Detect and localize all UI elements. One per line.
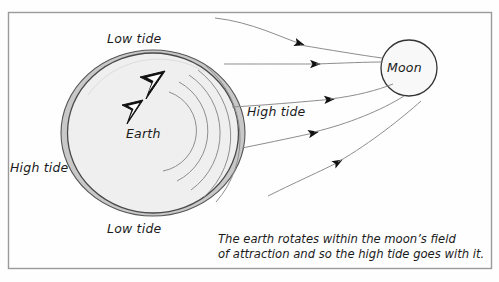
label-low-tide-bottom: Low tide: [107, 221, 161, 236]
figure-caption: The earth rotates within the moon’s fiel…: [218, 232, 484, 261]
field-line-1: [215, 18, 304, 45]
figure-canvas: Low tide Low tide High tide High tide Ea…: [0, 0, 499, 282]
label-moon: Moon: [387, 60, 422, 75]
moon-field-lines: [215, 18, 421, 196]
label-low-tide-top: Low tide: [107, 31, 161, 46]
label-high-tide-right: High tide: [247, 104, 306, 119]
field-line-2-tail: [316, 62, 383, 64]
field-line-4: [242, 132, 318, 148]
field-line-1-tail: [300, 45, 382, 58]
field-line-3-tail: [330, 84, 393, 99]
field-line-5-tail: [338, 101, 421, 162]
field-line-5: [268, 160, 342, 196]
label-high-tide-left: High tide: [10, 160, 69, 175]
label-earth: Earth: [126, 126, 161, 141]
